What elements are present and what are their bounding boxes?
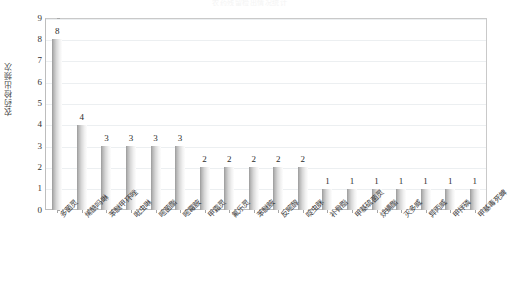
gridline [46, 189, 486, 190]
y-tick-label: 2 [16, 163, 42, 172]
y-tick-mark [57, 124, 60, 125]
y-tick-mark [57, 60, 60, 61]
x-axis-labels: 多菌灵烯酰吗啉苯醚甲环唑吡虫啉嘧菌酯嘧霉胺甲霜灵氟乐灵苯醚胺反嘧醇啶虫脒补骨脂甲… [45, 214, 487, 285]
gridline [46, 61, 486, 62]
y-tick-label: 9 [16, 14, 42, 23]
chart-title: 农药残留检出情况统计 [0, 0, 499, 6]
gridline [46, 125, 486, 126]
y-axis: 0123456789 [12, 18, 42, 210]
y-tick-label: 5 [16, 99, 42, 108]
y-tick-mark [57, 146, 60, 147]
plot-area [45, 18, 487, 210]
gridline [46, 40, 486, 41]
y-tick-label: 4 [16, 120, 42, 129]
y-tick-label: 7 [16, 56, 42, 65]
y-tick-mark [57, 39, 60, 40]
y-tick-mark [57, 103, 60, 104]
gridline [46, 168, 486, 169]
y-tick-label: 0 [16, 206, 42, 215]
y-tick-mark [57, 188, 60, 189]
gridline [46, 19, 486, 20]
y-tick-mark [57, 82, 60, 83]
y-tick-mark [57, 167, 60, 168]
gridline [46, 83, 486, 84]
y-tick-mark [57, 18, 60, 19]
y-tick-label: 6 [16, 78, 42, 87]
y-tick-label: 8 [16, 35, 42, 44]
gridline [46, 104, 486, 105]
y-tick-label: 1 [16, 184, 42, 193]
gridline [46, 147, 486, 148]
y-tick-label: 3 [16, 142, 42, 151]
